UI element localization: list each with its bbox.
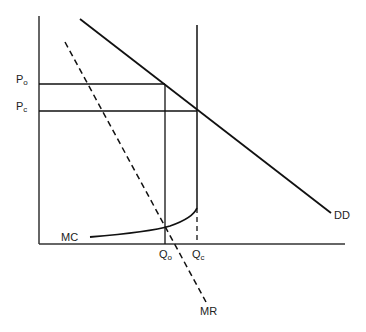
demand-curve <box>80 19 331 213</box>
label-po: Po <box>16 73 28 87</box>
label-qc: Qc <box>192 248 205 262</box>
label-pc: Pc <box>16 100 27 114</box>
label-qo: Qo <box>159 248 173 262</box>
marginal-revenue-curve <box>65 42 206 302</box>
label-mr: MR <box>200 305 217 317</box>
label-mc: MC <box>61 231 78 243</box>
marginal-cost-curve <box>90 208 197 237</box>
economics-diagram: Po Pc Qo Qc MC DD MR <box>0 0 366 332</box>
label-dd: DD <box>334 209 350 221</box>
